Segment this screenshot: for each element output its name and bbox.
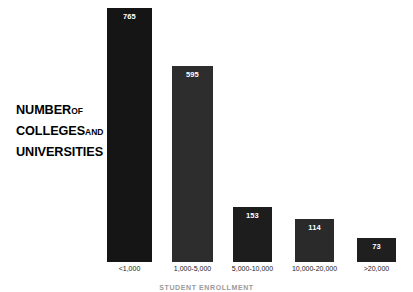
bar-value-label: 765 [107,12,152,21]
x-tick-label: <1,000 [93,265,166,272]
bar: 153 [233,207,272,262]
bar: 73 [357,238,396,262]
x-tick-label: 5,000-10,000 [219,265,286,272]
bar-value-label: 73 [357,242,396,251]
x-tick-label: >20,000 [343,265,410,272]
bar-value-label: 114 [295,223,334,232]
bar: 765 [107,8,152,262]
chart-figure: NUMBEROF COLLEGESAND UNIVERSITIES 765<1,… [0,0,413,292]
bar-value-label: 153 [233,211,272,220]
bar: 114 [295,219,334,262]
x-tick-label: 10,000-20,000 [281,265,348,272]
bar-value-label: 595 [172,70,213,79]
x-axis-caption: STUDENT ENROLLMENT [0,284,413,292]
bar: 595 [172,66,213,262]
plot-area: 765<1,0005951,000-5,0001535,000-10,00011… [0,0,413,292]
x-tick-label: 1,000-5,000 [158,265,227,272]
